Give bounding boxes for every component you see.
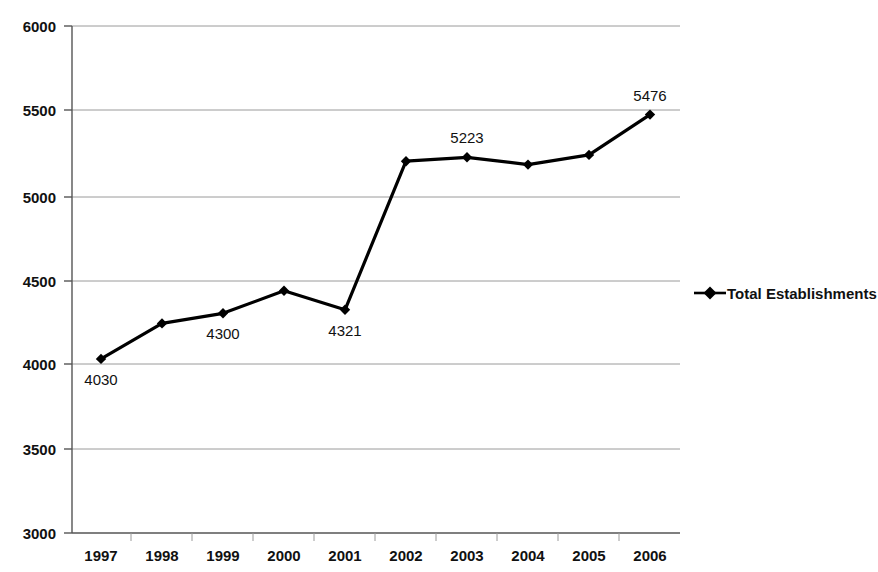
x-tick-label: 2005 [572,547,605,564]
series-total-establishments [96,109,655,364]
chart-canvas: 6000 5500 5000 4500 4000 3500 3000 1997 … [0,0,878,572]
data-point-marker [401,156,411,166]
y-tick-label: 3500 [23,441,56,458]
x-axis-labels: 1997 1998 1999 2000 2001 2002 2003 2004 … [84,547,666,564]
x-tick-label: 2006 [633,547,666,564]
x-tick-label: 1997 [84,547,117,564]
data-point-marker [340,305,350,315]
x-tick-label: 1998 [145,547,178,564]
y-tick-label: 3000 [23,525,56,542]
data-point-value-label: 5223 [450,129,483,146]
data-point-marker [523,159,533,169]
data-point-marker [218,308,228,318]
x-axis-ticks [131,533,619,541]
data-point-value-label: 4321 [328,322,361,339]
data-point-marker [462,152,472,162]
line-chart: 6000 5500 5000 4500 4000 3500 3000 1997 … [0,0,878,572]
y-tick-label: 5000 [23,189,56,206]
data-point-value-label: 4030 [84,371,117,388]
data-point-value-label: 5476 [633,87,666,104]
y-axis-ticks [64,26,72,533]
y-tick-label: 4000 [23,356,56,373]
legend-diamond-marker-icon [704,287,717,300]
legend: Total Establishments [694,285,877,302]
data-point-marker [279,286,289,296]
x-tick-label: 2003 [450,547,483,564]
y-tick-label: 5500 [23,102,56,119]
legend-entry-label: Total Establishments [727,285,877,302]
x-tick-label: 2002 [389,547,422,564]
x-tick-label: 2004 [511,547,545,564]
y-tick-label: 6000 [23,18,56,35]
x-tick-label: 1999 [206,547,239,564]
x-tick-label: 2001 [328,547,361,564]
y-tick-label: 4500 [23,273,56,290]
data-point-value-label: 4300 [206,325,239,342]
axis-lines [72,26,680,533]
x-tick-label: 2000 [267,547,300,564]
y-axis-labels: 6000 5500 5000 4500 4000 3500 3000 [23,18,56,542]
